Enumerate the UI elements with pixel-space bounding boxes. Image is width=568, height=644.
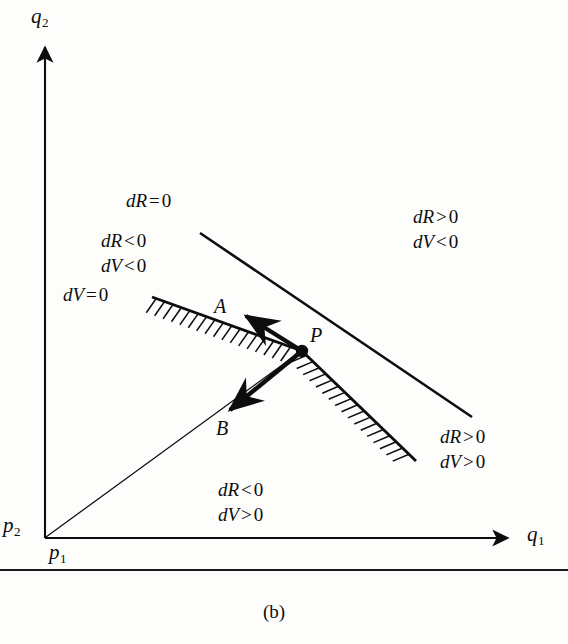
vector-B-label: B bbox=[216, 418, 228, 438]
axis-group bbox=[45, 47, 508, 538]
point-P-label: P bbox=[310, 325, 322, 345]
vector-A-label: A bbox=[214, 296, 226, 316]
hatching-lower-branch bbox=[290, 355, 409, 461]
dV-zero-locus bbox=[152, 297, 416, 461]
vector-B-arrow bbox=[230, 351, 302, 410]
origin-label-p2: p2 bbox=[3, 515, 21, 538]
region-label-upper-left: dR<0 dV<0 bbox=[101, 228, 146, 278]
dR-zero-label: dR=0 bbox=[126, 191, 171, 210]
origin-label-p1: p1 bbox=[49, 542, 67, 565]
point-P-marker bbox=[296, 345, 308, 357]
x-axis-label: q1 bbox=[527, 524, 545, 547]
dV-zero-label: dV=0 bbox=[63, 285, 108, 304]
figure-container: q2 q1 p2 p1 P A B dR=0 dV=0 dR>0 dV<0 dR… bbox=[0, 0, 568, 644]
region-label-lower-right: dR>0 dV>0 bbox=[440, 424, 485, 474]
region-label-lower-left: dR<0 dV>0 bbox=[218, 477, 263, 527]
dR-zero-line bbox=[200, 233, 472, 417]
y-axis-label: q2 bbox=[31, 6, 49, 29]
figure-caption: (b) bbox=[263, 602, 285, 621]
dV-zero-upper-branch bbox=[152, 297, 302, 351]
region-label-upper-right: dR>0 dV<0 bbox=[413, 204, 458, 254]
diagram-canvas bbox=[0, 0, 568, 644]
